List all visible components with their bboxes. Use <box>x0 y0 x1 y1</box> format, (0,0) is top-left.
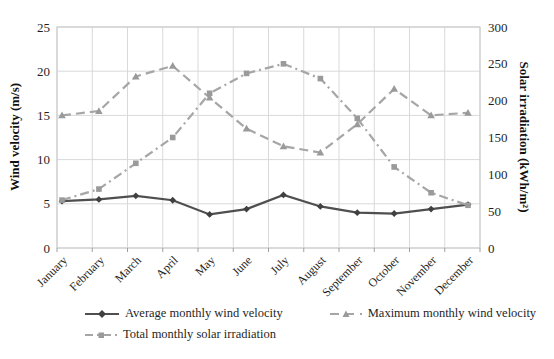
data-point-triangle <box>390 85 398 92</box>
data-point-square <box>465 202 471 208</box>
data-point-square <box>244 71 250 77</box>
legend-item-maximum-wind: Maximum monthly wind velocity <box>329 306 536 321</box>
gridlines <box>57 27 480 248</box>
svg-text:10: 10 <box>37 152 50 167</box>
data-point-diamond <box>391 210 398 217</box>
svg-text:25: 25 <box>37 20 50 35</box>
legend-item-average-wind: Average monthly wind velocity <box>84 306 283 321</box>
svg-text:20: 20 <box>37 64 50 79</box>
svg-text:July: July <box>268 253 292 277</box>
svg-text:August: August <box>294 253 329 288</box>
data-point-square <box>133 160 139 166</box>
data-point-diamond <box>206 211 213 218</box>
series-3-line <box>62 64 468 205</box>
data-point-square <box>354 116 360 122</box>
data-point-diamond <box>96 196 103 203</box>
data-point-square <box>428 190 434 196</box>
left-axis-tick-labels: 0510152025 <box>37 20 50 256</box>
svg-text:300: 300 <box>488 20 508 35</box>
series-2-line <box>62 66 468 153</box>
svg-text:March: March <box>112 253 144 285</box>
x-axis-month-labels: JanuaryFebruaryMarchAprilMayJuneJulyAugu… <box>34 253 476 300</box>
legend-swatch-maximum-wind-icon <box>329 308 363 320</box>
legend-item-solar-irradiation: Total monthly solar irradiation <box>84 327 276 342</box>
svg-text:15: 15 <box>37 108 50 123</box>
legend-label-solar-irradiation: Total monthly solar irradiation <box>123 327 276 342</box>
data-point-square <box>96 186 102 192</box>
svg-text:September: September <box>319 253 365 299</box>
svg-text:November: November <box>393 253 439 299</box>
data-point-triangle <box>169 62 177 69</box>
data-point-diamond <box>132 192 139 199</box>
data-point-square <box>281 61 287 67</box>
data-point-diamond <box>428 206 435 213</box>
left-axis-title: Wind velocity (m/s) <box>7 83 23 191</box>
svg-text:June: June <box>229 253 254 278</box>
data-point-square <box>59 197 65 203</box>
svg-text:December: December <box>431 253 476 298</box>
svg-text:100: 100 <box>488 167 508 182</box>
data-point-triangle <box>243 125 251 132</box>
right-axis-tick-labels: 050100150200250300 <box>488 20 508 256</box>
legend-row-2: Total monthly solar irradiation <box>84 327 276 342</box>
data-point-square <box>170 135 176 141</box>
data-point-diamond <box>243 206 250 213</box>
chart-container: 0510152025050100150200250300JanuaryFebru… <box>0 0 554 359</box>
series-1-line <box>62 195 468 214</box>
data-point-diamond <box>280 192 287 199</box>
svg-text:50: 50 <box>488 204 501 219</box>
legend-swatch-solar-irradiation-icon <box>84 329 118 341</box>
svg-text:200: 200 <box>488 93 508 108</box>
legend-row-1: Average monthly wind velocity Maximum mo… <box>84 306 536 321</box>
legend-label-maximum-wind: Maximum monthly wind velocity <box>368 306 536 321</box>
x-axis-ticks <box>57 248 480 252</box>
svg-text:0: 0 <box>488 241 495 256</box>
data-point-diamond <box>169 197 176 204</box>
legend-swatch-average-wind-icon <box>84 308 120 320</box>
svg-text:February: February <box>66 253 107 294</box>
svg-text:5: 5 <box>44 196 51 211</box>
right-axis-title: Solar irradiation (kWh/m²) <box>516 62 532 213</box>
data-point-square <box>391 164 397 170</box>
svg-text:0: 0 <box>44 241 51 256</box>
svg-text:April: April <box>153 253 181 281</box>
svg-text:150: 150 <box>488 130 508 145</box>
svg-text:May: May <box>192 253 217 278</box>
svg-text:January: January <box>34 253 70 289</box>
svg-text:250: 250 <box>488 56 508 71</box>
data-point-square <box>318 76 324 82</box>
data-point-square <box>207 91 213 97</box>
legend-label-average-wind: Average monthly wind velocity <box>125 306 283 321</box>
data-point-diamond <box>354 209 361 216</box>
